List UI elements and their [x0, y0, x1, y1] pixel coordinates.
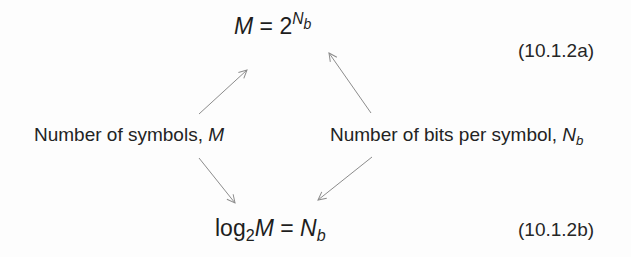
arrows-layer	[0, 0, 631, 257]
arrow-icon	[329, 53, 371, 113]
arrow-icon	[318, 157, 372, 200]
arrow-icon	[199, 70, 247, 114]
arrow-icon	[199, 158, 235, 203]
